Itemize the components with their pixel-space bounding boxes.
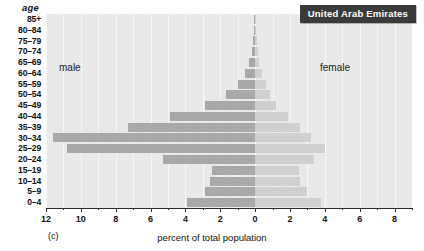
bar-female [255,26,256,35]
x-tick-minor [238,208,239,210]
gridline [377,14,378,208]
age-axis-header: age [22,2,39,13]
bar-female [255,36,257,45]
x-tick-minor [412,208,413,210]
x-tick-minor [377,208,378,210]
age-group-label: 0–4 [27,197,41,207]
x-tick-minor [98,208,99,210]
age-group-label: 10–14 [18,176,41,186]
age-group-label: 20–24 [18,154,41,164]
bar-female [255,80,265,89]
x-tick-major [185,208,186,212]
gridline [395,14,396,208]
bar-male [205,101,256,110]
x-tick-major [290,208,291,212]
gridline [81,14,82,208]
bar-male [226,90,256,99]
age-group-label: 5–9 [27,186,41,196]
chart-title-plate: United Arab Emirates [300,5,416,23]
bar-male [67,144,255,153]
age-group-label: 50–54 [18,89,41,99]
x-tick-label: 8 [113,214,118,224]
bar-female [255,166,299,175]
age-group-label: 40–44 [18,111,41,121]
bar-male [163,155,255,164]
gridline [342,14,343,208]
x-tick-major [360,208,361,212]
x-tick-minor [307,208,308,210]
x-tick-major [46,208,47,212]
gridline [63,14,64,208]
age-group-label: 70–74 [18,46,41,56]
gridline [46,14,47,208]
bar-female [255,15,256,24]
female-side-caption: female [320,62,350,73]
x-tick-label: 4 [183,214,188,224]
x-tick-label: 0 [253,214,258,224]
x-tick-major [395,208,396,212]
age-group-label: 30–34 [18,133,41,143]
x-tick-major [325,208,326,212]
bar-female [255,90,270,99]
plot-area [46,14,412,208]
gridline [325,14,326,208]
bar-female [255,123,300,132]
bar-male [128,123,255,132]
bar-male [53,133,255,142]
x-tick-label: 8 [392,214,397,224]
x-axis-title: percent of total population [0,232,424,243]
x-tick-minor [168,208,169,210]
age-group-label: 75–79 [18,36,41,46]
population-pyramid-figure: age 85+80–8475–7970–7465–6960–6455–5950–… [0,0,424,251]
x-axis-line [46,208,412,209]
bar-female [255,58,259,67]
age-group-label: 35–39 [18,122,41,132]
bar-female [255,47,258,56]
x-tick-minor [203,208,204,210]
bar-male [245,69,255,78]
bar-female [255,177,300,186]
age-group-label: 55–59 [18,79,41,89]
age-group-labels: 85+80–8475–7970–7465–6960–6455–5950–5445… [0,14,43,208]
x-tick-minor [273,208,274,210]
x-tick-label: 4 [322,214,327,224]
age-group-label: 65–69 [18,57,41,67]
x-tick-minor [63,208,64,210]
bar-female [255,69,262,78]
panel-letter: (c) [48,231,59,241]
x-tick-label: 12 [41,214,51,224]
x-tick-major [151,208,152,212]
bar-female [255,144,325,153]
gridline [151,14,152,208]
age-group-label: 15–19 [18,165,41,175]
x-tick-major [116,208,117,212]
bar-male [170,112,255,121]
gridline [360,14,361,208]
bar-female [255,133,311,142]
x-tick-label: 2 [218,214,223,224]
bar-female [255,187,307,196]
age-group-label: 45–49 [18,100,41,110]
bar-female [255,101,276,110]
gridline [116,14,117,208]
gridline [307,14,308,208]
x-tick-label: 2 [287,214,292,224]
bar-female [255,112,288,121]
x-tick-minor [342,208,343,210]
x-tick-label: 6 [357,214,362,224]
gridline [133,14,134,208]
x-tick-label: 6 [148,214,153,224]
bar-female [255,155,314,164]
bar-male [205,187,256,196]
x-tick-major [255,208,256,212]
gridline [98,14,99,208]
x-tick-minor [133,208,134,210]
age-group-label: 60–64 [18,68,41,78]
x-tick-major [220,208,221,212]
bar-male [212,166,256,175]
age-group-label: 85+ [27,14,41,24]
bar-male [238,80,255,89]
male-side-caption: male [59,62,81,73]
x-tick-major [81,208,82,212]
bar-male [187,198,255,207]
